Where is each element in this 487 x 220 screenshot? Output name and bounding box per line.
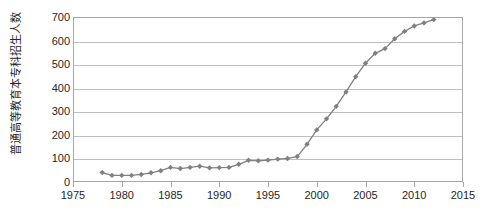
x-axis-tick-label: 2000	[294, 189, 340, 202]
series-line-chart	[73, 17, 463, 182]
x-axis-tick-mark	[122, 182, 123, 187]
series-line	[102, 20, 434, 176]
x-axis-tick-label: 1985	[148, 189, 194, 202]
y-axis-title: 普通高等教育本专科招生人数	[7, 0, 25, 171]
x-axis-tick-label: 2015	[440, 189, 486, 202]
y-axis-tick-label: 100	[36, 153, 70, 164]
y-axis-tick-label: 200	[36, 129, 70, 140]
x-axis-tick-mark	[268, 182, 269, 187]
data-point-marker	[207, 165, 212, 170]
x-axis-tick-mark	[317, 182, 318, 187]
data-point-marker	[285, 156, 290, 161]
data-point-marker	[197, 164, 202, 169]
data-point-marker	[265, 157, 270, 162]
data-point-marker	[431, 17, 436, 22]
data-point-marker	[187, 165, 192, 170]
x-axis-tick-mark	[219, 182, 220, 187]
x-axis-tick-label: 2005	[343, 189, 389, 202]
data-point-marker	[226, 165, 231, 170]
y-axis-tick-label: 300	[36, 106, 70, 117]
x-axis-tick-mark	[463, 182, 464, 187]
data-point-marker	[119, 173, 124, 178]
data-point-marker	[275, 156, 280, 161]
y-axis-tick-label: 600	[36, 35, 70, 46]
data-point-marker	[139, 172, 144, 177]
x-axis-tick-mark	[171, 182, 172, 187]
data-point-marker	[178, 166, 183, 171]
data-point-marker	[148, 170, 153, 175]
x-axis-tick-label: 1990	[196, 189, 242, 202]
chart-container: 普通高等教育本专科招生人数 0100200300400500600700 197…	[0, 0, 487, 220]
x-axis-tick-label: 1980	[99, 189, 145, 202]
data-point-marker	[158, 168, 163, 173]
x-axis-tick-label: 2010	[391, 189, 437, 202]
data-point-marker	[100, 170, 105, 175]
y-axis-tick-label: 700	[36, 12, 70, 23]
data-point-marker	[246, 158, 251, 163]
x-axis-tick-labels: 197519801985199019952000200520102015	[0, 189, 487, 205]
y-axis-tick-label: 400	[36, 82, 70, 93]
data-point-marker	[168, 165, 173, 170]
data-point-marker	[129, 173, 134, 178]
y-axis-tick-label: 0	[36, 177, 70, 188]
x-axis-tick-mark	[73, 182, 74, 187]
y-axis-tick-labels: 0100200300400500600700	[36, 0, 70, 220]
data-point-marker	[217, 165, 222, 170]
x-axis-tick-mark	[414, 182, 415, 187]
x-axis-tick-mark	[366, 182, 367, 187]
x-axis-tick-marks	[73, 182, 463, 187]
y-axis-title-line-1: 普通高等教育本专科招生人数	[10, 12, 23, 155]
data-point-marker	[421, 20, 426, 25]
x-axis-tick-label: 1975	[50, 189, 96, 202]
data-point-marker	[109, 173, 114, 178]
data-point-marker	[412, 23, 417, 28]
data-point-marker	[236, 162, 241, 167]
data-point-marker	[256, 158, 261, 163]
x-axis-tick-label: 1995	[245, 189, 291, 202]
y-axis-tick-label: 500	[36, 59, 70, 70]
